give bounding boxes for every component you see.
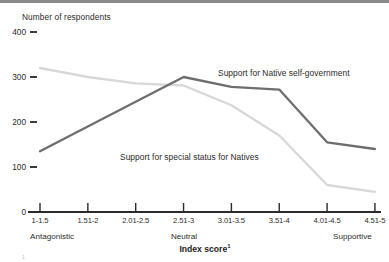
x-tick-label: 1.51-2 — [77, 216, 98, 225]
x-anchor-label-center: Neutral — [171, 232, 197, 241]
x-axis-title-superscript: 1 — [227, 243, 230, 249]
series-lines — [40, 68, 375, 192]
x-tick-label: 2.01-2.5 — [122, 216, 149, 225]
series-line — [40, 68, 375, 192]
x-tick-label: 4.51-5 — [364, 216, 385, 225]
x-tick-label: 1-1.5 — [32, 216, 49, 225]
footnote-marker: 1 — [22, 254, 25, 260]
x-axis-title-text: Index score — [179, 244, 227, 254]
chart-figure: Number of respondents 0100200300400 1-1.… — [0, 0, 389, 262]
x-anchor-label-left: Antagonistic — [30, 232, 74, 241]
series-label-self-government: Support for Native self-government — [218, 68, 350, 78]
x-tick-label: 4.01-4.5 — [314, 216, 341, 225]
x-tick-label: 2.51-3 — [173, 216, 194, 225]
x-tick-label: 3.51-4 — [269, 216, 290, 225]
x-anchor-label-right: Supportive — [333, 232, 372, 241]
x-axis-title: Index score1 — [179, 243, 230, 254]
series-line — [40, 77, 375, 151]
footnote: 1 — [22, 254, 25, 262]
x-axis-tick-marks — [40, 203, 375, 211]
x-tick-label: 3.01-3.5 — [218, 216, 245, 225]
series-label-special-status: Support for special status for Natives — [120, 152, 259, 162]
